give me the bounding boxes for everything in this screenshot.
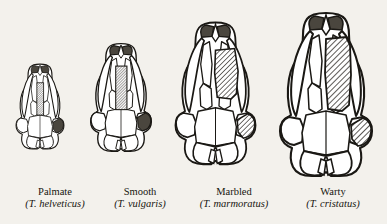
common-name-smooth: Smooth xyxy=(93,186,187,198)
common-name-warty: Warty xyxy=(283,186,383,198)
specimen-marbled xyxy=(175,22,255,164)
specimen-palmate xyxy=(16,64,64,149)
common-name-palmate: Palmate xyxy=(8,186,102,198)
vomer-hatch-warty xyxy=(325,37,351,111)
vomer-hatch-marbled xyxy=(215,49,238,99)
species-name-palmate: (T. helveticus) xyxy=(8,198,102,210)
caption-marbled: Marbled (T. marmoratus) xyxy=(178,186,290,224)
caption-palmate: Palmate (T. helveticus) xyxy=(8,186,102,224)
vomer-hatch-smooth xyxy=(116,66,127,110)
caption-warty: Warty (T. cristatus) xyxy=(283,186,383,224)
vomer-hatch-palmate xyxy=(37,83,44,115)
species-name-smooth: (T. vulgaris) xyxy=(93,198,187,210)
specimen-warty xyxy=(280,13,372,176)
common-name-marbled: Marbled xyxy=(178,186,290,198)
species-name-marbled: (T. marmoratus) xyxy=(178,198,290,210)
species-name-warty: (T. cristatus) xyxy=(283,198,383,210)
specimen-smooth xyxy=(91,44,152,152)
caption-smooth: Smooth (T. vulgaris) xyxy=(93,186,187,224)
